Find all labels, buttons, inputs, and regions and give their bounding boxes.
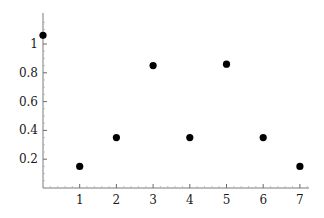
x-tick-label: 2: [113, 193, 121, 207]
data-point: [260, 134, 267, 141]
minor-ticks: [43, 22, 307, 188]
x-tick-label: 3: [149, 193, 157, 207]
y-tick-label: 0.4: [19, 123, 38, 137]
x-tick-label: 6: [259, 193, 267, 207]
data-point: [39, 32, 46, 39]
y-tick-label: 0.8: [19, 66, 38, 80]
x-tick-label: 1: [76, 193, 84, 207]
data-point: [223, 61, 230, 68]
data-point: [150, 62, 157, 69]
y-tick-label: 0.2: [19, 152, 38, 166]
data-points: [39, 32, 303, 170]
data-point: [113, 134, 120, 141]
y-tick-label: 0.6: [19, 95, 38, 109]
x-ticks: 1234567: [76, 184, 304, 207]
data-point: [76, 163, 83, 170]
x-tick-label: 5: [223, 193, 231, 207]
x-tick-label: 4: [186, 193, 194, 207]
data-point: [296, 163, 303, 170]
x-tick-label: 7: [296, 193, 304, 207]
scatter-chart: 1234567 0.20.40.60.81: [0, 0, 324, 218]
y-tick-label: 1: [30, 37, 38, 51]
data-point: [186, 134, 193, 141]
